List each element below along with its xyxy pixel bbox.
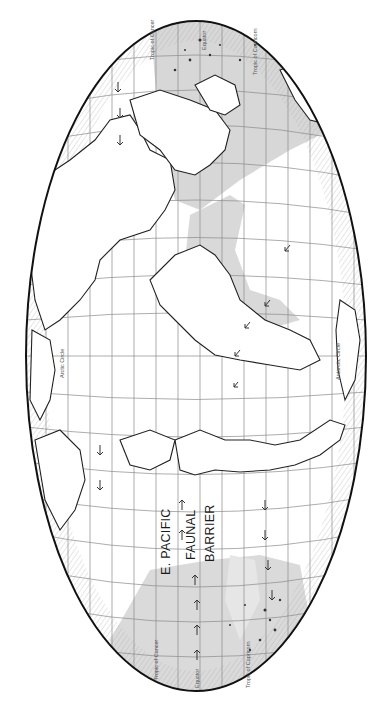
tropic-capricorn-label-bottom: Tropic of Capricorn	[245, 641, 251, 688]
tropic-cancer-label-bottom: Tropic of Cancer	[153, 639, 159, 680]
barrier-label-line1: E. PACIFIC	[159, 508, 173, 575]
barrier-label-line3: BARRIER	[203, 504, 217, 562]
map-canvas: E. PACIFIC FAUNAL BARRIER Tropic of Canc…	[0, 0, 392, 709]
world-map: E. PACIFIC FAUNAL BARRIER Tropic of Canc…	[0, 0, 392, 709]
tropic-capricorn-label-top: Tropic of Capricorn	[252, 28, 258, 75]
antarctic-circle-label: Antarctic Circle	[335, 343, 341, 380]
tropic-cancer-label-top: Tropic of Cancer	[149, 19, 155, 60]
arctic-circle-label: Arctic Circle	[59, 349, 65, 378]
equator-label-bottom: Equator	[194, 669, 200, 688]
barrier-label-line2: FAUNAL	[184, 510, 198, 560]
equator-label-top: Equator	[201, 31, 207, 50]
